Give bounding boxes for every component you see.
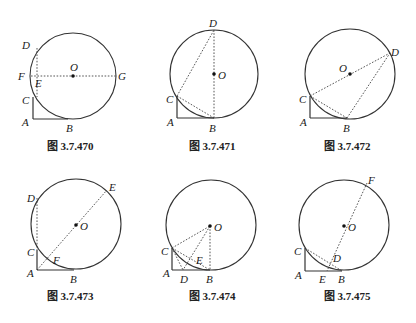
point-label: B — [70, 273, 77, 285]
figure-2: DOCAB图 3.7.471 — [166, 17, 258, 152]
point-label: B — [206, 273, 213, 285]
center-point-icon — [212, 72, 216, 76]
point-label: E — [34, 77, 42, 89]
dotted-line — [177, 30, 214, 96]
point-label: O — [70, 61, 78, 73]
figure-5: OCEADB图 3.7.474 — [161, 180, 256, 302]
point-label: E — [195, 254, 203, 266]
point-label: C — [299, 93, 307, 105]
point-label: B — [66, 122, 73, 134]
figure-caption: 图 3.7.472 — [324, 140, 371, 152]
figure-caption: 图 3.7.474 — [189, 290, 236, 302]
dotted-line — [172, 248, 210, 270]
center-point-icon — [342, 224, 346, 228]
geometry-figures-canvas: DFEOGCAB图 3.7.470DOCAB图 3.7.471DOCAB图 3.… — [0, 0, 416, 323]
center-point-icon — [348, 72, 352, 76]
point-label: A — [299, 116, 307, 128]
point-label: F — [367, 174, 375, 186]
dotted-line — [310, 96, 347, 118]
point-label: F — [17, 70, 25, 82]
point-label: O — [80, 220, 88, 232]
figure-3: DOCAB图 3.7.472 — [299, 29, 399, 152]
figure-caption: 图 3.7.470 — [47, 140, 94, 152]
center-point-icon — [71, 74, 75, 78]
dotted-line — [172, 226, 210, 248]
point-label: D — [390, 46, 399, 58]
point-label: C — [166, 93, 174, 105]
point-label: A — [166, 116, 174, 128]
figure-caption: 图 3.7.471 — [189, 140, 236, 152]
point-label: D — [332, 252, 341, 264]
point-label: F — [52, 254, 60, 266]
point-label: O — [348, 221, 356, 233]
point-label: A — [26, 267, 34, 279]
figure-4: DEOCFAB图 3.7.473 — [26, 179, 121, 302]
dotted-line — [177, 96, 214, 118]
point-label: E — [318, 273, 326, 285]
point-label: O — [218, 69, 226, 81]
figure-caption: 图 3.7.473 — [47, 290, 94, 302]
center-point-icon — [208, 224, 212, 228]
point-label: O — [339, 62, 347, 74]
point-label: B — [338, 273, 345, 285]
point-label: A — [294, 269, 302, 281]
center-point-icon — [74, 223, 78, 227]
point-label: B — [343, 122, 350, 134]
point-label: E — [108, 181, 116, 193]
point-label: D — [179, 273, 188, 285]
dotted-line — [347, 53, 390, 118]
point-label: C — [294, 245, 302, 257]
point-label: B — [209, 122, 216, 134]
point-label: D — [21, 39, 30, 51]
figure-1: DFEOGCAB图 3.7.470 — [17, 33, 126, 152]
point-label: A — [21, 116, 29, 128]
point-label: C — [161, 245, 169, 257]
point-label: G — [118, 70, 126, 82]
point-label: A — [162, 267, 170, 279]
point-label: O — [214, 221, 222, 233]
point-label: C — [27, 246, 35, 258]
dotted-line — [37, 190, 107, 270]
point-label: C — [22, 94, 30, 106]
point-label: D — [26, 192, 35, 204]
figure-6: FOCDAEB图 3.7.475 — [294, 174, 389, 302]
figure-caption: 图 3.7.475 — [324, 290, 371, 302]
point-label: D — [208, 17, 217, 29]
